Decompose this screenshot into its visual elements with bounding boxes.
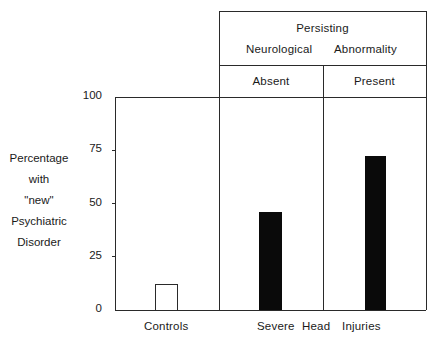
- right-border: [426, 11, 427, 310]
- header-top-border: [219, 11, 426, 12]
- group-divider: [219, 11, 220, 310]
- y-tick-label-50: 50: [72, 196, 102, 208]
- header-title-line2-right: Abnormality: [334, 43, 397, 55]
- bar-head-injury-absent: [259, 212, 282, 310]
- y-axis-label-line: Disorder: [0, 232, 78, 253]
- y-axis-line: [115, 97, 116, 310]
- x-label-head: Head: [302, 320, 330, 332]
- y-axis-label-line: Psychiatric: [0, 211, 78, 232]
- x-axis-baseline: [115, 310, 426, 311]
- top-border-controls: [115, 97, 219, 98]
- y-tick-label-75: 75: [72, 142, 102, 154]
- y-axis-label-line: with: [0, 169, 78, 190]
- bar-head-injury-present: [365, 156, 386, 310]
- header-title-line2-left: Neurological: [246, 43, 312, 55]
- subgroup-label-present: Present: [323, 75, 426, 87]
- x-label-controls: Controls: [144, 320, 188, 332]
- x-label-injuries: Injuries: [342, 320, 381, 332]
- y-tick-label-25: 25: [72, 249, 102, 261]
- y-axis-label-line: "new": [0, 190, 78, 211]
- y-tick-label-100: 100: [72, 89, 102, 101]
- header-divider: [219, 65, 426, 66]
- header-title-line1: Persisting: [219, 22, 426, 34]
- bar-controls: [155, 284, 178, 310]
- y-tick-label-0: 0: [72, 302, 102, 314]
- subgroup-label-absent: Absent: [219, 75, 323, 87]
- subgroup-divider: [323, 65, 324, 310]
- y-axis-label-line: Percentage: [0, 148, 78, 169]
- header-bottom-border: [219, 97, 426, 98]
- x-label-severe: Severe: [257, 320, 295, 332]
